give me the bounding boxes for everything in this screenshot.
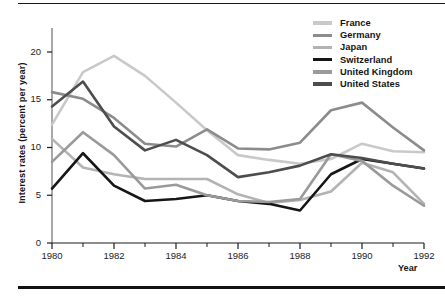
- x-tick-label: 1986: [221, 250, 255, 261]
- x-tick-label: 1984: [159, 250, 193, 261]
- legend-swatch-icon: [313, 70, 332, 73]
- legend-item-label: Switzerland: [340, 55, 392, 65]
- legend-swatch-icon: [313, 21, 332, 24]
- legend-item-united-kingdom[interactable]: United Kingdom: [313, 66, 412, 78]
- legend-item-label: United States: [340, 79, 400, 89]
- legend-swatch-icon: [313, 46, 332, 49]
- legend-swatch-icon: [313, 58, 332, 61]
- x-tick-label: 1982: [97, 250, 131, 261]
- series-line-germany: [52, 92, 424, 150]
- x-tick-label: 1988: [283, 250, 317, 261]
- chart-legend: FranceGermanyJapanSwitzerlandUnited King…: [313, 17, 412, 90]
- legend-item-label: Japan: [340, 42, 367, 52]
- x-tick-label: 1980: [35, 250, 69, 261]
- legend-item-germany[interactable]: Germany: [313, 29, 412, 41]
- y-tick-label: 0: [21, 237, 41, 248]
- x-tick-label: 1992: [407, 250, 441, 261]
- series-line-united-states: [52, 82, 424, 177]
- legend-swatch-icon: [313, 34, 332, 37]
- legend-item-label: Germany: [340, 30, 381, 40]
- legend-item-japan[interactable]: Japan: [313, 41, 412, 53]
- legend-item-switzerland[interactable]: Switzerland: [313, 54, 412, 66]
- legend-item-label: France: [340, 18, 371, 28]
- x-axis-title: Year: [398, 263, 417, 273]
- legend-item-united-states[interactable]: United States: [313, 78, 412, 90]
- figure-container: 05101520 1980198219841986198819901992 In…: [0, 0, 445, 297]
- x-tick-label: 1990: [345, 250, 379, 261]
- legend-swatch-icon: [313, 82, 332, 85]
- legend-item-label: United Kingdom: [340, 67, 412, 77]
- legend-item-france[interactable]: France: [313, 17, 412, 29]
- y-axis-title: Interest rates (percent per year): [17, 33, 27, 233]
